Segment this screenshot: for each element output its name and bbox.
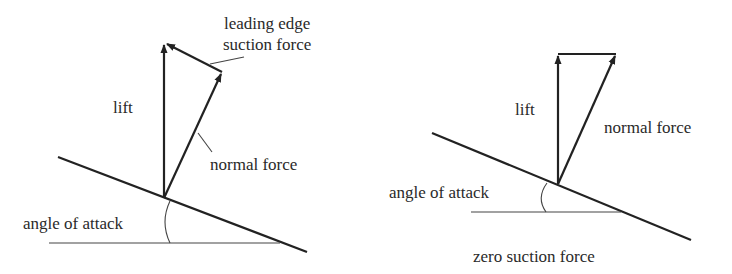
left-normal-leader-line (198, 133, 212, 152)
right-label-angle-of-attack: angle of attack (389, 183, 490, 202)
right-label-lift: lift (515, 100, 535, 119)
left-label-suction-line1: leading edge (224, 14, 310, 33)
right-label-zero-suction-force: zero suction force (473, 247, 595, 266)
right-label-normal-force: normal force (604, 118, 691, 137)
left-label-angle-of-attack: angle of attack (23, 214, 124, 233)
force-diagram: leading edge suction force lift normal f… (0, 0, 732, 274)
right-diagram: lift normal force angle of attack zero s… (389, 54, 691, 266)
left-suction-force-arrow (167, 44, 222, 72)
left-label-suction-line2: suction force (223, 35, 311, 54)
left-normal-force-arrow (164, 74, 221, 198)
left-suction-leader-line (210, 57, 244, 64)
left-diagram: leading edge suction force lift normal f… (23, 14, 311, 252)
left-label-normal-force: normal force (210, 155, 297, 174)
left-label-lift: lift (113, 98, 133, 117)
right-angle-of-attack-arc (541, 183, 547, 212)
left-angle-of-attack-arc (165, 201, 170, 243)
